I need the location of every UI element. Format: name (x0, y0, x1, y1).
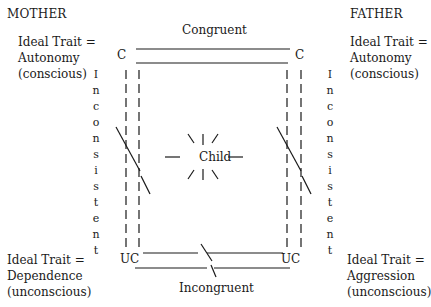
mother-break-slash-2 (141, 176, 150, 194)
child-ray-bottom-right (212, 170, 218, 179)
mother-break-slash-1 (116, 127, 140, 171)
incongruent-break-slash-lower (211, 265, 216, 277)
father-break-slash-1 (277, 127, 301, 171)
father-break-slash-2 (302, 176, 311, 194)
child-ray-bottom-left (188, 170, 194, 179)
child-ray-top-left (188, 134, 194, 143)
child-ray-top-right (212, 134, 218, 143)
